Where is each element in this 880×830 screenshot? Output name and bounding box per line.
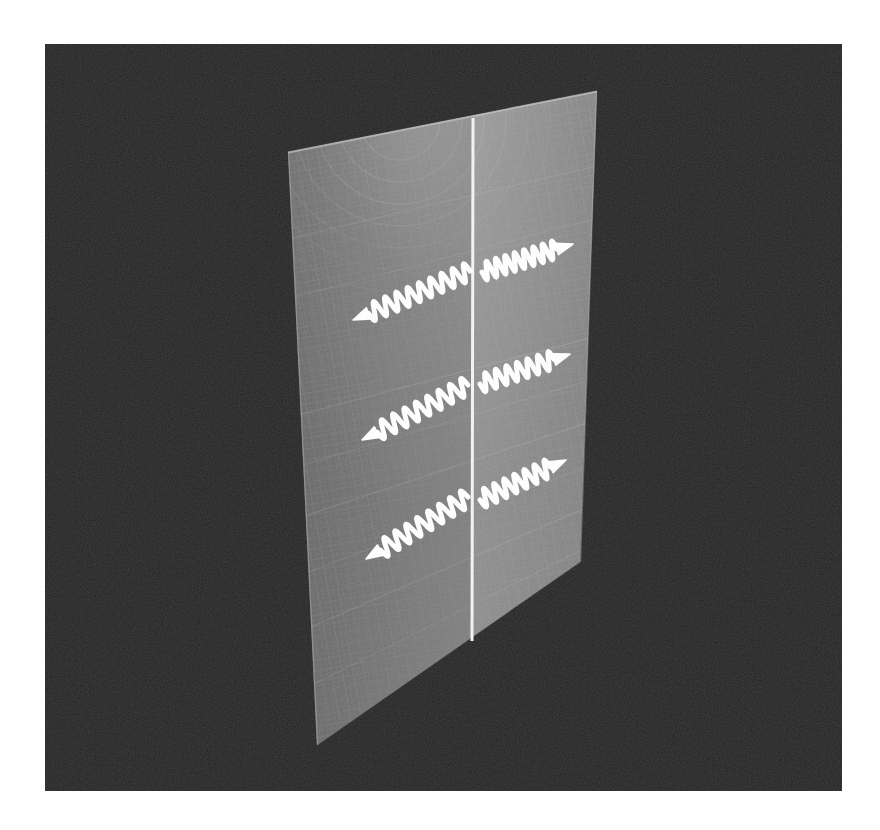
figure-root: This figure contains no visible text, ax… <box>0 0 880 830</box>
film-grain-overlay <box>45 44 842 791</box>
photographic-plate <box>45 44 842 791</box>
